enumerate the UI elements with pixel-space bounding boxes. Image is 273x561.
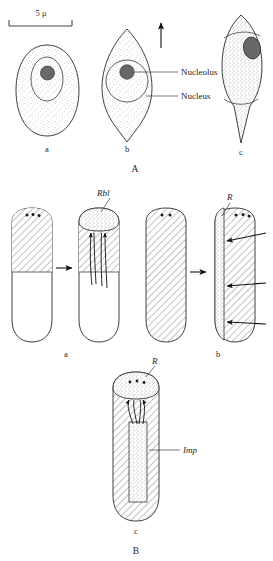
panel-a-cell-a-label: a [45,144,49,154]
b-a-left-dot-3 [38,214,41,217]
panel-b-row-a-label: a [64,349,68,359]
b-c-apical-cap [113,372,159,399]
b-c-dot-1 [129,381,132,384]
scale-bar-label: 5 μ [36,8,47,18]
panel-b-row-c-label: c [134,526,138,536]
b-b-left-body [146,208,186,342]
callout-nucleus-label: Nucleus [181,91,211,101]
panel-a-cell-c-label: c [239,147,243,157]
panel-b-label: B [133,546,139,556]
callout-r-label-row-c: R [151,356,158,366]
callout-imp-label: Imp [182,445,197,455]
cell-a-nucleolus [41,66,55,80]
b-b-right-dot-2 [242,213,245,216]
b-b-right-r-band [215,208,224,340]
callout-nucleolus-label: Nucleolus [181,67,218,77]
b-c-imp-column [129,422,147,502]
cell-morphogenesis-diagram: 5 μ a b c [0,0,273,561]
b-b-left-dot-1 [161,214,164,217]
b-b-right-dot-1 [235,214,238,217]
panel-b-row-b-cell-left [146,208,186,342]
b-b-right-dot-3 [248,215,251,218]
b-c-dot-2 [136,380,139,383]
figure-container: 5 μ a b c [0,0,273,561]
cell-b-nucleolus [120,65,134,79]
panel-a-cell-b-label: b [125,144,129,154]
b-a-right-apical-cap [79,208,119,231]
panel-b-row-b-label: b [216,349,220,359]
callout-rbl-label: Rbl [96,188,110,198]
b-a-left-dot-2 [32,213,35,216]
b-c-dot-3 [143,381,146,384]
b-a-left-hatched-region [12,208,52,272]
panel-b-row-a-cell-left [12,208,52,342]
b-b-left-dot-2 [169,214,172,217]
callout-r-label-row-b: R [226,192,233,202]
panel-a-label: A [132,164,139,174]
b-a-left-dot-1 [26,214,29,217]
